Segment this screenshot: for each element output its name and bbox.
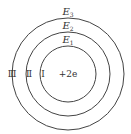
energy-label-3: E3 bbox=[61, 6, 73, 18]
energy-label-2: E2 bbox=[61, 20, 73, 32]
region-label-1: Ⅰ bbox=[41, 69, 45, 79]
region-label-2: Ⅱ bbox=[26, 69, 32, 79]
region-label-3: Ⅲ bbox=[8, 69, 17, 79]
center-charge: +2e bbox=[59, 69, 78, 79]
concentric-energy-diagram: E3 E2 E1 Ⅲ Ⅱ Ⅰ +2e bbox=[0, 0, 131, 134]
energy-label-1: E1 bbox=[61, 34, 73, 46]
